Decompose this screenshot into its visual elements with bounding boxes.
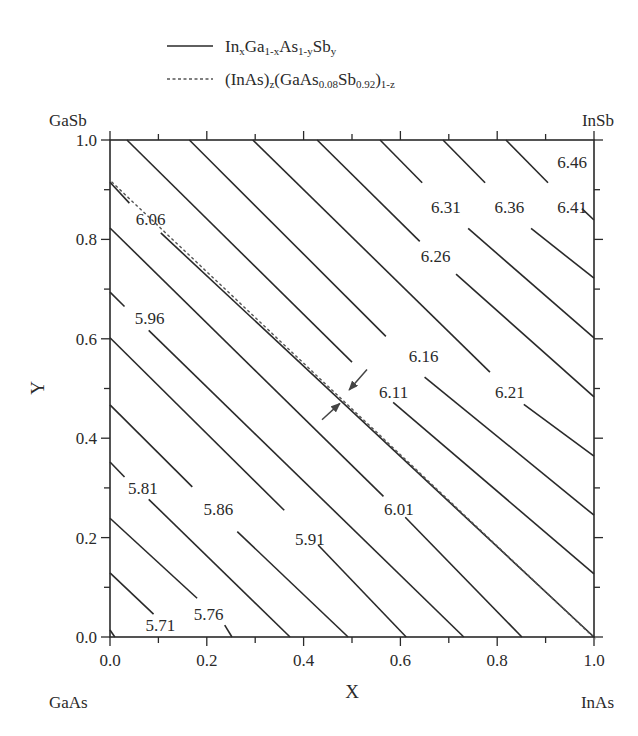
contour-line xyxy=(468,228,594,337)
contour-label: 5.76 xyxy=(194,605,224,624)
contour-line xyxy=(110,228,383,496)
contour-label: 5.96 xyxy=(135,309,165,328)
contour-line xyxy=(531,228,594,278)
contour-line xyxy=(318,545,406,637)
contour-line xyxy=(443,140,485,183)
contour-line xyxy=(225,625,232,637)
contour-label: 6.26 xyxy=(421,247,451,266)
y-tick-label: 0.0 xyxy=(76,628,97,647)
x-tick-label: 0.8 xyxy=(487,651,508,670)
contour-label: 5.91 xyxy=(295,530,325,549)
contour-line xyxy=(127,140,352,362)
contour-label: 5.86 xyxy=(204,500,234,519)
arrow-icon xyxy=(349,370,367,390)
arrow-annotations xyxy=(322,370,367,420)
contour-label: 6.36 xyxy=(494,198,524,217)
x-tick-label: 0.0 xyxy=(99,651,120,670)
contour-label: 6.16 xyxy=(409,347,439,366)
contour-line xyxy=(253,140,490,372)
y-axis-label: Y xyxy=(27,381,48,395)
y-tick-label: 0.6 xyxy=(76,330,97,349)
contour-label: 6.06 xyxy=(136,210,166,229)
contour-label: 6.11 xyxy=(379,383,408,402)
contour-line xyxy=(524,404,594,456)
x-tick-label: 0.2 xyxy=(196,651,217,670)
x-tick-label: 1.0 xyxy=(583,651,604,670)
contour-label: 6.41 xyxy=(557,198,587,217)
x-tick-label: 0.6 xyxy=(390,651,411,670)
contour-line xyxy=(456,274,594,397)
arrow-icon xyxy=(322,403,340,419)
contour-line xyxy=(189,140,386,336)
contour-line xyxy=(405,517,522,637)
contour-labels: 5.715.765.815.865.915.966.016.066.116.16… xyxy=(128,153,587,635)
contour-line xyxy=(506,140,548,183)
corner-label-inas: InAs xyxy=(581,693,614,712)
x-axis-label: X xyxy=(345,681,359,702)
contour-line xyxy=(110,573,154,614)
y-tick-label: 1.0 xyxy=(76,131,97,150)
contour-label: 6.01 xyxy=(384,500,414,519)
y-tick-label: 0.4 xyxy=(76,429,98,448)
contour-line xyxy=(110,462,125,477)
contour-line xyxy=(317,140,420,241)
contour-label: 6.21 xyxy=(495,383,525,402)
contour-line xyxy=(393,402,594,573)
contour-label: 6.31 xyxy=(431,198,461,217)
corner-label-insb: InSb xyxy=(582,111,614,130)
contour-chart: InxGa1-xAs1-ySby(InAs)z(GaAs0.08Sb0.92)1… xyxy=(0,0,638,736)
y-tick-label: 0.8 xyxy=(76,230,97,249)
contour-label: 6.46 xyxy=(557,153,587,172)
legend: InxGa1-xAs1-ySby(InAs)z(GaAs0.08Sb0.92)1… xyxy=(167,37,395,90)
x-tick-label: 0.4 xyxy=(293,651,315,670)
contour-line xyxy=(149,330,464,637)
contour-line xyxy=(237,532,348,637)
legend-entry-text: InxGa1-xAs1-ySby xyxy=(225,37,337,57)
y-tick-label: 0.2 xyxy=(76,529,97,548)
corner-label-gaas: GaAs xyxy=(49,693,88,712)
contour-label: 5.71 xyxy=(145,616,175,635)
corner-label-gasb: GaSb xyxy=(49,111,87,130)
contour-line xyxy=(110,292,125,306)
contour-line xyxy=(110,182,129,203)
legend-entry-text: (InAs)z(GaAs0.08Sb0.92)1-z xyxy=(225,70,395,90)
contour-label: 5.81 xyxy=(128,479,158,498)
contour-line xyxy=(380,140,422,183)
